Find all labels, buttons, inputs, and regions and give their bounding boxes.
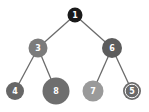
tree-node-6: 6 — [102, 38, 122, 58]
node-label: 5 — [129, 87, 135, 96]
tree-node-1: 1 — [68, 8, 83, 23]
node-label: 7 — [90, 87, 96, 96]
node-label: 3 — [35, 44, 41, 53]
tree-node-3: 3 — [29, 39, 48, 58]
tree-node-5: 5 — [123, 82, 141, 100]
nodes-layer: 1364875 — [6, 8, 141, 105]
node-label: 8 — [53, 87, 59, 96]
node-label: 1 — [72, 11, 78, 20]
node-label: 4 — [12, 87, 18, 96]
tree-canvas: 1364875 — [0, 0, 149, 112]
tree-node-7: 7 — [83, 81, 104, 102]
tree-diagram: 1364875 — [0, 0, 149, 112]
node-label: 6 — [109, 44, 115, 53]
tree-node-8: 8 — [43, 78, 70, 105]
tree-node-4: 4 — [6, 82, 24, 100]
